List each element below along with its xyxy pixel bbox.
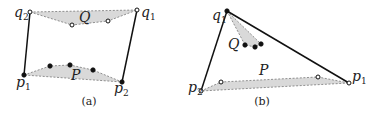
filled-point (253, 45, 257, 49)
open-point (70, 23, 74, 27)
label-q1: q1 (141, 4, 156, 22)
filled-point (48, 64, 52, 68)
open-point (316, 75, 320, 79)
filled-point (243, 43, 247, 47)
open-point (106, 19, 110, 23)
label-p: P (70, 67, 81, 83)
filled-point (259, 42, 263, 46)
caption-a: (a) (81, 95, 96, 108)
filled-point (91, 68, 95, 72)
figure: q2Qq1Pp1p2(a)q1QPp1p2(b) (0, 0, 376, 120)
label-p2: p2 (114, 80, 129, 98)
label-q: Q (79, 9, 91, 25)
label-p2: p2 (188, 79, 203, 97)
filled-point (225, 9, 229, 13)
open-point (219, 80, 223, 84)
open-point (135, 8, 139, 12)
panel-b: q1QPp1p2(b) (188, 7, 367, 108)
segment (122, 10, 137, 82)
caption-b: (b) (254, 95, 270, 108)
hull-p (201, 77, 349, 91)
label-q2: q2 (14, 4, 29, 22)
label-q: Q (228, 36, 240, 52)
panel-a: q2Qq1Pp1p2(a) (14, 4, 156, 108)
open-point (347, 81, 351, 85)
label-p1: p1 (352, 68, 367, 86)
label-q1: q1 (212, 7, 227, 25)
label-p1: p1 (16, 74, 31, 92)
label-p: P (258, 62, 269, 78)
diagram-canvas: q2Qq1Pp1p2(a)q1QPp1p2(b) (0, 0, 376, 120)
